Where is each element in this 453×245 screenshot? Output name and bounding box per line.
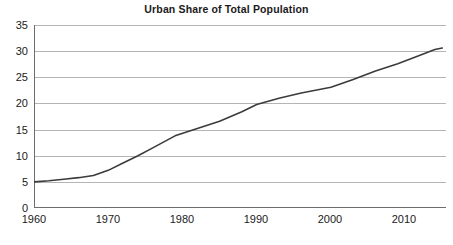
gridlines (34, 26, 446, 183)
axis-tick-marks (34, 26, 406, 209)
x-tick-label-1990: 1990 (231, 214, 281, 225)
x-tick-label-1980: 1980 (157, 214, 207, 225)
axis-lines (34, 25, 446, 208)
urban-share-line-chart: Urban Share of Total Population 35 30 25… (0, 0, 453, 245)
x-tick-label-2000: 2000 (305, 214, 355, 225)
x-tick-label-2010: 2010 (379, 214, 429, 225)
x-tick-label-1960: 1960 (9, 214, 59, 225)
x-tick-label-1970: 1970 (83, 214, 133, 225)
data-series-line (34, 48, 442, 182)
plot-area (34, 25, 446, 208)
plot-svg (34, 25, 446, 208)
